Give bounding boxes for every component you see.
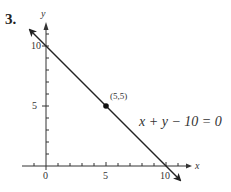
y-tick-label-5: 5 xyxy=(32,100,37,111)
y-axis-arrow-icon xyxy=(44,22,49,30)
x-tick-label-5: 5 xyxy=(103,170,108,181)
x-tick-label-0: 0 xyxy=(43,170,48,181)
x-tick-label-10: 10 xyxy=(160,170,170,181)
y-tick-label-10: 10 xyxy=(31,40,41,51)
equation-label: x + y − 10 = 0 xyxy=(138,114,222,129)
x-axis-label: x xyxy=(194,160,200,171)
x-axis-ticks xyxy=(34,162,178,166)
y-axis-label: y xyxy=(40,8,46,19)
equation-line-body xyxy=(46,46,180,180)
x-axis-arrow-icon xyxy=(186,164,192,169)
x-axis: x 0 5 10 xyxy=(22,160,200,181)
point-label: (5,5) xyxy=(110,91,127,101)
point-5-5 xyxy=(103,103,109,109)
y-axis: y 5 10 xyxy=(31,8,49,170)
line-graph: x 0 5 10 y 5 10 (5,5) x + y − 10 = 0 xyxy=(0,0,231,192)
